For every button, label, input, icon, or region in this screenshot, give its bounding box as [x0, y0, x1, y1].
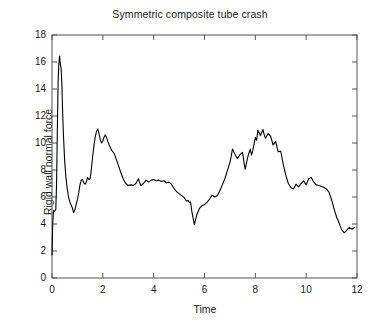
tick-marks — [52, 35, 357, 278]
plot-area — [0, 0, 380, 329]
plot-frame — [52, 35, 357, 278]
data-series-line — [52, 56, 354, 255]
chart-figure: Symmetric composite tube crash Rigid wal… — [0, 0, 380, 329]
